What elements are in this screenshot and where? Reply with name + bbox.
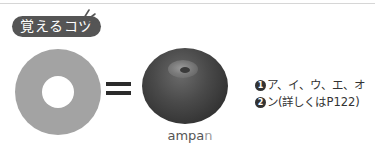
- bun-caption: ampan: [155, 128, 225, 143]
- bun-center-pit: [180, 67, 190, 73]
- equals-sign: [106, 82, 131, 97]
- caption-main: ampa: [167, 128, 204, 143]
- caption-dim-letter: n: [204, 128, 212, 143]
- equals-bar-bottom: [106, 91, 131, 95]
- ring-hole: [42, 76, 74, 108]
- top-divider: [0, 3, 375, 4]
- notes-list: 1 ア、イ、ウ、エ、オ 2 ン(詳しくはP122): [255, 77, 365, 111]
- equals-bar-top: [106, 82, 131, 86]
- note-text: ン(詳しくはP122): [267, 94, 360, 111]
- ring-diagram: [15, 49, 101, 135]
- number-circle-1: 1: [255, 80, 266, 91]
- note-text: ア、イ、ウ、エ、オ: [267, 77, 365, 94]
- anpan-bun-image: [142, 48, 228, 124]
- note-item: 2 ン(詳しくはP122): [255, 94, 365, 111]
- note-item: 1 ア、イ、ウ、エ、オ: [255, 77, 365, 94]
- number-circle-2: 2: [255, 97, 266, 108]
- sparkle-lines-icon: [80, 9, 100, 25]
